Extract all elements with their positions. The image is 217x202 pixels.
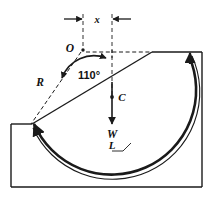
figure-background [0, 0, 217, 202]
centroid-marker [110, 95, 114, 99]
center-point-label: O [66, 42, 74, 54]
circular-slip-surface-figure: O R 110° x C W L [0, 0, 217, 202]
centroid-label: C [118, 91, 126, 103]
arclength-label: L [108, 139, 116, 151]
radius-label: R [35, 76, 44, 88]
offset-label: x [93, 14, 99, 25]
center-point-marker [81, 48, 84, 51]
angle-label: 110° [78, 69, 100, 81]
